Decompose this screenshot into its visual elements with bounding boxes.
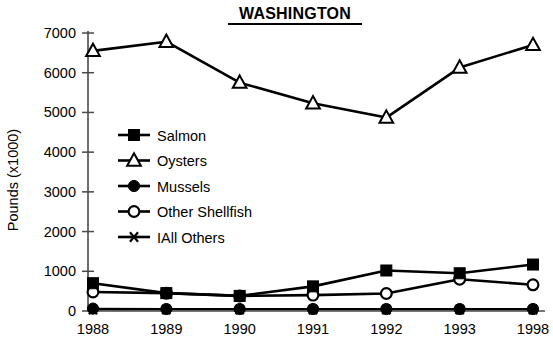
open-circle-marker <box>129 206 140 217</box>
x-tick-label: 1989 <box>150 321 182 337</box>
filled-square-marker <box>161 288 172 299</box>
line-chart-canvas: WASHINGTON Pounds (x1000) 70006000500040… <box>0 0 553 357</box>
legend-label: Other Shellfish <box>157 204 252 220</box>
x-tick-label: 1992 <box>370 321 402 337</box>
y-tick-label: 5000 <box>44 104 76 120</box>
legend-label: Oysters <box>157 153 207 169</box>
x-tick-label: 1998 <box>517 321 549 337</box>
y-axis-label: Pounds (x1000) <box>5 129 21 231</box>
filled-square-marker <box>88 278 99 289</box>
legend-label: IAll Others <box>157 230 225 246</box>
chart-background <box>0 0 553 357</box>
open-circle-marker <box>381 288 392 299</box>
filled-square-marker <box>129 130 140 141</box>
chart-title-group: WASHINGTON <box>228 5 362 24</box>
filled-square-marker <box>528 259 539 270</box>
filled-circle-marker <box>161 303 172 314</box>
y-tick-label: 6000 <box>44 65 76 81</box>
open-circle-marker <box>528 279 539 290</box>
filled-circle-marker <box>128 180 139 191</box>
y-tick-label: 0 <box>68 303 76 319</box>
filled-circle-marker <box>87 303 98 314</box>
filled-circle-marker <box>307 303 318 314</box>
y-tick-label: 2000 <box>44 224 76 240</box>
x-tick-label: 1988 <box>77 321 109 337</box>
y-tick-label: 1000 <box>44 263 76 279</box>
chart-figure: WASHINGTON Pounds (x1000) 70006000500040… <box>0 0 553 357</box>
filled-square-marker <box>234 290 245 301</box>
filled-square-marker <box>308 281 319 292</box>
chart-title: WASHINGTON <box>239 5 351 22</box>
filled-square-marker <box>381 265 392 276</box>
y-tick-label: 3000 <box>44 184 76 200</box>
legend-label: Mussels <box>157 179 210 195</box>
filled-square-marker <box>454 268 465 279</box>
x-tick-label: 1991 <box>297 321 329 337</box>
filled-circle-marker <box>527 303 538 314</box>
filled-circle-marker <box>234 303 245 314</box>
filled-circle-marker <box>454 303 465 314</box>
filled-circle-marker <box>381 303 392 314</box>
x-tick-label: 1990 <box>224 321 256 337</box>
y-tick-label: 4000 <box>44 144 76 160</box>
x-tick-label: 1993 <box>444 321 476 337</box>
y-tick-label: 7000 <box>44 25 76 41</box>
legend-label: Salmon <box>157 128 206 144</box>
